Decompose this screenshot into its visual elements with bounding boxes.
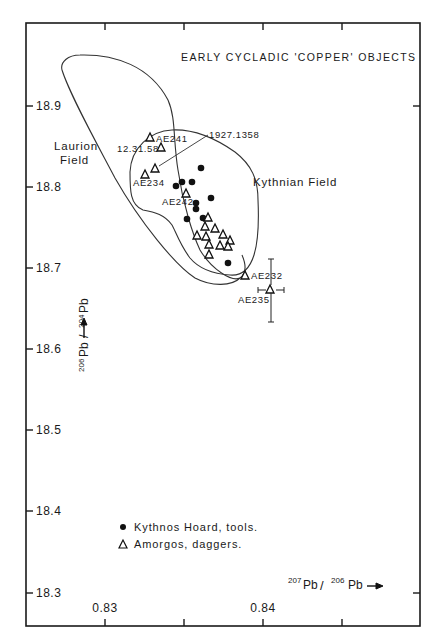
point-label-ae235: AE235 [238, 294, 270, 305]
laurion-field-label-line1: Laurion [54, 140, 98, 152]
data-point-triangle [202, 232, 210, 240]
legend-marker-filled-circle [120, 524, 126, 530]
point-label-ae232: AE232 [251, 270, 283, 281]
x-axis-arrow-icon [367, 583, 383, 589]
legend-label-kythnos: Kythnos Hoard, tools. [134, 521, 258, 533]
left-ticks [26, 106, 33, 593]
y-tick-18.9: 18.9 [36, 99, 61, 113]
data-point-circle [189, 179, 196, 186]
data-point-triangle [201, 222, 209, 230]
legend-marker-open-triangle [119, 540, 127, 548]
y-tick-18.7: 18.7 [36, 261, 61, 275]
scatter-chart: 18.9 18.8 18.7 18.6 18.5 18.4 18.3 0.83 … [0, 0, 439, 643]
x-tick-0.83: 0.83 [92, 601, 117, 615]
y-axis-label-numerator-mass: 206 [77, 358, 86, 372]
y-tick-18.6: 18.6 [36, 342, 61, 356]
data-point-triangle-1927-1358 [151, 164, 159, 172]
x-axis-label-denominator-pb: Pb [348, 578, 363, 592]
data-point-circle [179, 179, 186, 186]
x-axis-label: 207 Pb / 206 Pb [288, 576, 363, 593]
data-point-triangle [219, 230, 227, 238]
series-kythnos-hoard [173, 165, 232, 267]
y-axis-label-denominator-pb: Pb [77, 298, 91, 313]
y-axis-label-numerator-pb: Pb [77, 342, 91, 357]
point-label-12-31-58: 12.31.58 [117, 143, 159, 154]
bottom-ticks [105, 619, 342, 626]
point-label-ae234: AE234 [133, 177, 165, 188]
point-label-ae242: AE242 [162, 196, 194, 207]
x-axis-label-numerator-mass: 207 [288, 576, 302, 585]
data-point-circle [198, 165, 205, 172]
chart-title: EARLY CYCLADIC 'COPPER' OBJECTS [181, 51, 417, 63]
point-label-1927-1358: 1927.1358 [209, 129, 259, 140]
laurion-field-label-line2: Field [60, 154, 89, 166]
y-tick-18.3: 18.3 [36, 586, 61, 600]
x-tick-0.84: 0.84 [250, 601, 275, 615]
data-point-circle [193, 206, 200, 213]
data-point-triangle-ae241 [146, 133, 154, 141]
data-point-circle [193, 200, 200, 207]
data-point-triangle-ae235 [266, 285, 274, 293]
legend: Kythnos Hoard, tools. Amorgos, daggers. [119, 521, 258, 550]
y-tick-18.8: 18.8 [36, 180, 61, 194]
data-point-triangle [216, 241, 224, 249]
y-tick-18.5: 18.5 [36, 423, 61, 437]
series-amorgos-daggers [141, 133, 274, 293]
top-ticks [105, 23, 342, 30]
right-ticks [413, 106, 420, 593]
legend-label-amorgos: Amorgos, daggers. [134, 538, 242, 550]
data-point-circle [173, 183, 180, 190]
data-point-triangle [205, 240, 213, 248]
data-point-triangle [205, 250, 213, 258]
kythnian-field-label: Kythnian Field [253, 176, 337, 188]
data-point-circle [208, 195, 215, 202]
data-point-circle [184, 216, 191, 223]
data-point-triangle [211, 224, 219, 232]
data-point-circle [225, 260, 232, 267]
y-tick-18.4: 18.4 [36, 504, 61, 518]
x-axis-label-denominator-mass: 206 [331, 576, 345, 585]
point-label-ae241: AE241 [156, 133, 188, 144]
x-axis-label-slash: / [320, 578, 324, 593]
x-axis-label-numerator-pb: Pb [303, 578, 318, 592]
